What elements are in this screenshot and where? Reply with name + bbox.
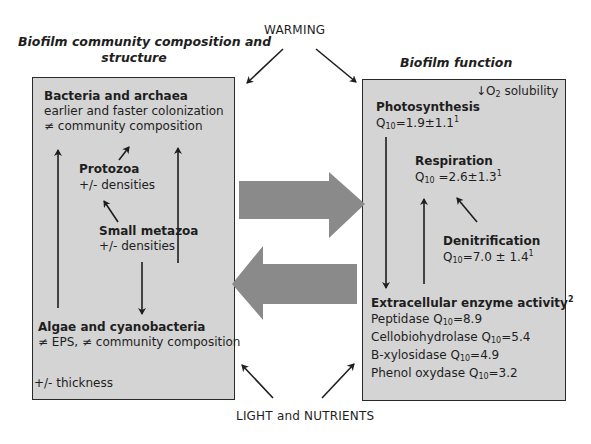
enzyme-item-phenol-oxydase: Phenol oxydase Q10=3.2 — [371, 366, 518, 381]
warming-arrow-right — [316, 49, 356, 82]
q10-value: =3.2 — [489, 366, 518, 380]
metazoa-effect: +/- densities — [99, 239, 175, 254]
photosynthesis-label: Photosynthesis — [376, 100, 480, 115]
denitrification-q10: Q10=7.0 ± 1.41 — [443, 250, 534, 265]
q-subscript: 10 — [443, 318, 453, 327]
q10-value: =7.0 ± 1.4 — [463, 250, 529, 264]
enzyme-name: Phenol oxydase — [371, 366, 469, 380]
q10-value: =4.9 — [470, 348, 499, 362]
denitrification-label: Denitrification — [443, 234, 540, 249]
big-arrow-left — [232, 246, 357, 320]
q10-value: =1.9±1.1 — [396, 116, 454, 130]
o2-species: O — [486, 84, 495, 98]
ref-superscript: 2 — [568, 295, 574, 304]
light-arrow-left — [242, 365, 273, 398]
protozoa-to-bacteria-arrow — [119, 147, 129, 160]
enzyme-item-peptidase: Peptidase Q10=8.9 — [371, 312, 482, 327]
denitrification-to-respiration-arrow — [457, 198, 477, 222]
q10-value: =8.9 — [453, 312, 482, 326]
enzyme-activity-title: Extracellular enzyme activity2 — [371, 296, 573, 311]
protozoa-effect: +/- densities — [79, 178, 155, 193]
respiration-label: Respiration — [415, 154, 493, 169]
q-symbol: Q — [450, 348, 459, 362]
light-arrow-right — [322, 364, 354, 398]
o2-text: solubility — [501, 84, 559, 98]
big-arrow-right — [239, 172, 365, 238]
enzyme-item-cellobiohydrolase: Cellobiohydrolase Q10=5.4 — [371, 330, 530, 345]
enzyme-title-text: Extracellular enzyme activity — [371, 296, 568, 310]
q-symbol: Q — [433, 312, 442, 326]
q-subscript: 10 — [460, 354, 470, 363]
o2-solubility-label: ↓O2 solubility — [476, 84, 558, 99]
q-subscript: 10 — [424, 176, 434, 185]
q10-value: =5.4 — [501, 330, 530, 344]
ref-superscript: 1 — [497, 169, 502, 178]
q10-value: =2.6±1.3 — [435, 170, 497, 184]
q-subscript: 10 — [478, 372, 488, 381]
protozoa-label: Protozoa — [79, 162, 139, 177]
photosynthesis-q10: Q10=1.9±1.11 — [376, 116, 459, 131]
metazoa-to-protozoa-arrow — [104, 201, 118, 222]
q-subscript: 10 — [385, 122, 395, 131]
ref-superscript: 1 — [529, 249, 534, 258]
bacteria-effect-2: ≠ community composition — [44, 119, 203, 134]
warming-arrow-left — [247, 49, 283, 83]
thickness-label: +/- thickness — [34, 376, 113, 391]
respiration-q10: Q10 =2.6±1.31 — [415, 170, 502, 185]
q-subscript: 10 — [491, 336, 501, 345]
down-arrow-icon: ↓ — [476, 84, 486, 98]
enzyme-name: Peptidase — [371, 312, 433, 326]
enzyme-name: Cellobiohydrolase — [371, 330, 482, 344]
algae-effect: ≠ EPS, ≠ community composition — [38, 335, 240, 350]
algae-label: Algae and cyanobacteria — [38, 320, 205, 335]
bacteria-effect-1: earlier and faster colonization — [44, 104, 224, 119]
bacteria-label: Bacteria and archaea — [44, 89, 188, 104]
metazoa-label: Small metazoa — [99, 224, 198, 239]
enzyme-item-xylosidase: Β-xylosidase Q10=4.9 — [371, 348, 499, 363]
enzyme-name: Β-xylosidase — [371, 348, 450, 362]
q-subscript: 10 — [452, 256, 462, 265]
q-symbol: Q — [482, 330, 491, 344]
q-symbol: Q — [469, 366, 478, 380]
ref-superscript: 1 — [454, 115, 459, 124]
